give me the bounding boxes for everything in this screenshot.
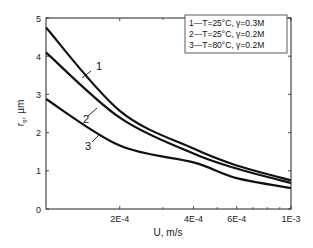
x-axis-label: U, m/s: [154, 227, 183, 238]
y-tick-label: 1: [36, 166, 41, 176]
curve-label-3: 3: [85, 140, 91, 152]
annotation-leader: [92, 134, 100, 142]
legend: 1—T=25°C, γ=0.3M 2—T=25°C, γ=0.2M 3—T=80…: [185, 15, 287, 53]
x-tick-label: 2E-4: [110, 214, 129, 224]
annotation-leader: [88, 108, 97, 116]
x-tick-label: 4E-4: [184, 214, 203, 224]
y-axis-label: rs, µm: [15, 100, 28, 127]
x-tick-label: 1E-3: [281, 214, 300, 224]
curve-label-1: 1: [96, 60, 102, 72]
y-tick-label: 0: [36, 205, 41, 215]
y-tick-label: 4: [36, 52, 41, 62]
y-tick-label: 3: [36, 90, 41, 100]
legend-entry-2: 2—T=25°C, γ=0.2M: [189, 29, 264, 39]
curve-label-2: 2: [83, 113, 89, 125]
legend-entry-1: 1—T=25°C, γ=0.3M: [189, 18, 264, 28]
line-chart: 2E-44E-46E-41E-3 012345 123 1—T=25°C, γ=…: [0, 0, 313, 248]
x-tick-label: 6E-4: [227, 214, 246, 224]
legend-entry-3: 3—T=80°C, γ=0.2M: [189, 40, 264, 50]
y-tick-label: 5: [36, 14, 41, 24]
y-axis-label-unit: , µm: [15, 100, 26, 120]
y-tick-label: 2: [36, 128, 41, 138]
